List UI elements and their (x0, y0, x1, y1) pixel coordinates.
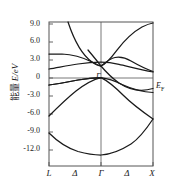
band-structure-figure: 能量 E/eV 9.0 6.0 3.0 0 -3.0 -6.0 -9.0 -12… (0, 0, 174, 189)
band-structure-plot (0, 0, 174, 189)
y-axis-ticks (49, 24, 53, 150)
